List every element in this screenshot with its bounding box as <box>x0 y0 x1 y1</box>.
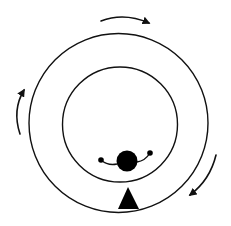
rotation-arrow-bottom-right-icon <box>190 155 216 195</box>
rotating-rings-diagram <box>0 0 231 226</box>
rotation-arrow-top-icon <box>101 17 149 23</box>
left-arm-dot <box>98 157 104 163</box>
outer-ring <box>29 34 208 213</box>
rotation-arrow-left-icon <box>17 90 24 134</box>
wedge-triangle <box>118 187 139 209</box>
ball <box>117 151 138 172</box>
right-arm-dot <box>147 150 153 156</box>
